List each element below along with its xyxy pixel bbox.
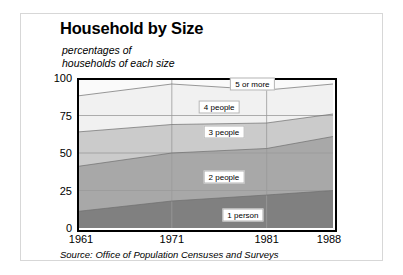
chart-page: Household by Size percentages of househo… — [0, 0, 403, 275]
page-title: Household by Size — [60, 19, 203, 38]
y-tick-label-100: 100 — [32, 72, 72, 84]
y-tick-label-75: 75 — [32, 110, 72, 122]
y-tick-label-50: 50 — [32, 147, 72, 159]
x-tick-label-1971: 1971 — [160, 233, 184, 245]
chart-subtitle: percentages of households of each size — [62, 44, 175, 69]
x-axis: 1961197119811988 — [77, 233, 335, 249]
series-label-2-people: 2 people — [204, 171, 245, 184]
y-tick-label-25: 25 — [32, 185, 72, 197]
series-label-3-people: 3 people — [204, 126, 245, 139]
series-label-1-person: 1 person — [222, 208, 263, 221]
series-label-5-or-more: 5 or more — [230, 78, 274, 91]
y-tick-label-0: 0 — [32, 222, 72, 234]
plot-area: 1 person2 people3 people4 people5 or mor… — [77, 78, 333, 228]
source-note: Source: Office of Population Censuses an… — [60, 249, 279, 260]
x-tick-label-1988: 1988 — [317, 233, 341, 245]
x-tick-label-1961: 1961 — [69, 233, 93, 245]
series-label-4-people: 4 people — [199, 100, 240, 113]
y-axis: 1007550250 — [30, 78, 72, 228]
x-tick-label-1981: 1981 — [254, 233, 278, 245]
